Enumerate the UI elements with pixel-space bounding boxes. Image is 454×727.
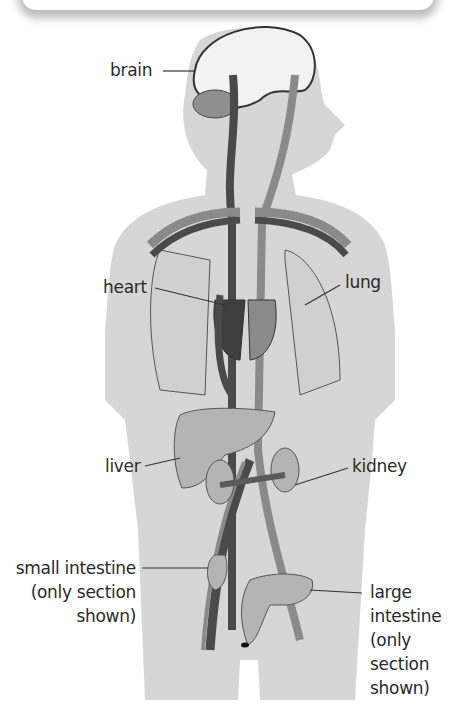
lung-left xyxy=(151,250,210,395)
label-large-intestine-line1: large xyxy=(370,582,441,602)
label-large-intestine-line3: (only xyxy=(370,630,441,650)
label-large-intestine-line5: shown) xyxy=(370,678,441,698)
rectum-opening xyxy=(241,643,249,648)
label-small-intestine-line1: small intestine xyxy=(10,558,136,578)
label-small-intestine-line2: (only section xyxy=(10,582,136,602)
label-heart: heart xyxy=(103,277,147,297)
label-liver: liver xyxy=(105,456,140,476)
label-large-intestine-line2: intestine xyxy=(370,606,441,626)
label-lung: lung xyxy=(345,272,381,292)
label-brain: brain xyxy=(110,60,152,80)
kidney-right xyxy=(271,448,299,492)
label-small-intestine-line3: shown) xyxy=(10,606,136,626)
label-small-intestine: small intestine (only section shown) xyxy=(10,558,136,626)
label-kidney: kidney xyxy=(352,456,407,476)
label-large-intestine: large intestine (only section shown) xyxy=(370,582,441,698)
label-large-intestine-line4: section xyxy=(370,654,441,674)
